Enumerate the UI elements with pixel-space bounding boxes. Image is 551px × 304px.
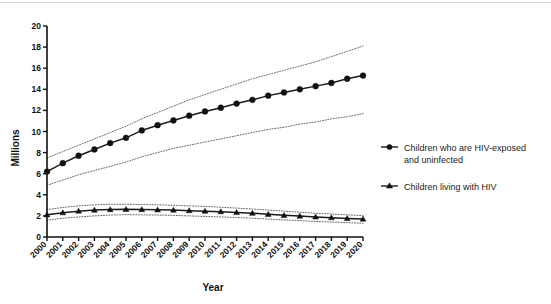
data-point-marker <box>107 140 113 146</box>
top-divider-rule <box>0 2 551 3</box>
series-line-1 <box>47 76 363 172</box>
data-point-marker <box>202 109 208 115</box>
data-point-marker <box>360 73 366 79</box>
data-point-marker <box>76 153 82 159</box>
data-point-marker <box>234 101 240 107</box>
y-axis-title: Millions <box>10 129 21 167</box>
legend-item-children-living-with-hiv[interactable]: Children living with HIV <box>381 182 497 192</box>
data-point-marker <box>281 90 287 96</box>
x-tick-label: 2017 <box>297 239 318 260</box>
y-tick-label: 16 <box>32 63 42 73</box>
x-tick-label: 2019 <box>328 239 349 260</box>
data-point-marker <box>123 135 129 141</box>
y-tick-label: 14 <box>32 84 42 94</box>
x-tick-label: 2009 <box>170 239 191 260</box>
x-tick-label: 2014 <box>249 239 270 260</box>
x-tick-label: 2013 <box>233 239 254 260</box>
legend-circle-icon <box>387 144 392 149</box>
data-point-marker <box>250 97 256 103</box>
chart-legend: Children who are HIV-exposed and uninfec… <box>381 143 526 192</box>
y-tick-label: 10 <box>32 127 42 137</box>
legend-label-1-line-1: Children who are HIV-exposed <box>404 143 526 153</box>
data-point-marker <box>92 147 98 153</box>
x-tick-label: 2004 <box>91 239 112 260</box>
x-tick-label: 2011 <box>202 239 222 259</box>
data-point-marker <box>186 113 192 119</box>
x-tick-label: 2000 <box>28 239 49 260</box>
legend-label-2-line-1: Children living with HIV <box>404 182 497 192</box>
y-tick-label: 20 <box>32 21 42 31</box>
data-point-marker <box>329 80 335 86</box>
data-point-marker <box>313 83 319 89</box>
x-tick-label: 2005 <box>107 239 128 260</box>
data-point-marker <box>218 105 224 111</box>
data-point-marker <box>297 86 303 92</box>
x-tick-label: 2020 <box>344 239 365 260</box>
x-tick-label: 2010 <box>186 239 207 260</box>
data-point-marker <box>155 122 161 128</box>
legend-label-1-line-2: and uninfected <box>404 155 463 165</box>
x-tick-label: 2012 <box>218 239 239 260</box>
x-tick-label: 2002 <box>60 239 81 260</box>
data-point-marker <box>139 128 145 134</box>
ci-upper-series-1 <box>47 46 363 158</box>
y-tick-labels-group: 02468101214161820 <box>32 21 42 242</box>
y-tick-label: 2 <box>36 211 41 221</box>
y-tick-label: 12 <box>32 105 42 115</box>
legend-item-hiv-exposed-uninfected[interactable]: Children who are HIV-exposed and uninfec… <box>381 143 526 166</box>
axis-group <box>43 26 363 241</box>
x-tick-label: 2007 <box>139 239 160 260</box>
x-axis-title: Year <box>202 282 223 293</box>
x-tick-label: 2015 <box>265 239 286 260</box>
data-point-marker <box>344 76 350 82</box>
data-point-marker <box>265 93 271 99</box>
y-tick-label: 4 <box>36 190 41 200</box>
data-point-marker <box>60 160 66 166</box>
x-tick-label: 2001 <box>44 239 65 260</box>
x-tick-labels-group: 2000200120022003200420052006200720082009… <box>28 239 365 260</box>
confidence-interval-group <box>47 46 363 223</box>
y-tick-label: 18 <box>32 42 42 52</box>
x-tick-label: 2003 <box>75 239 96 260</box>
x-tick-label: 2006 <box>123 239 144 260</box>
data-point-marker <box>171 118 177 124</box>
axis-lines <box>47 26 363 237</box>
line-chart-canvas: 02468101214161820 2000200120022003200420… <box>0 0 551 304</box>
x-tick-label: 2008 <box>154 239 175 260</box>
x-tick-label: 2018 <box>312 239 333 260</box>
y-tick-label: 8 <box>36 148 41 158</box>
x-tick-label: 2016 <box>281 239 302 260</box>
y-tick-label: 6 <box>36 169 41 179</box>
chart-figure: 02468101214161820 2000200120022003200420… <box>0 0 551 304</box>
